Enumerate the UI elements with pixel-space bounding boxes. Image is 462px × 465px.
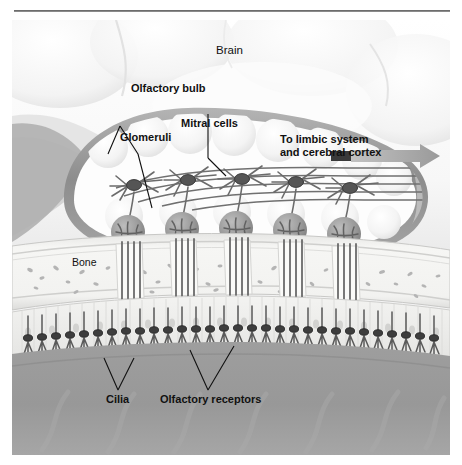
top-divider-rule xyxy=(14,10,450,12)
figure-root: Brain Olfactory bulb Glomeruli Mitral ce… xyxy=(0,0,462,465)
illustration-canvas: Brain Olfactory bulb Glomeruli Mitral ce… xyxy=(12,20,450,455)
label-mitral-cells: Mitral cells xyxy=(181,117,238,129)
label-bone: Bone xyxy=(72,256,97,268)
label-cilia: Cilia xyxy=(106,393,129,405)
anatomy-artwork xyxy=(12,20,450,455)
label-glomeruli: Glomeruli xyxy=(120,131,171,143)
mitral-cell-soma xyxy=(235,174,250,185)
mitral-cell-soma xyxy=(289,177,304,188)
mitral-cell-soma xyxy=(127,180,142,191)
bulb-cell-cluster xyxy=(367,205,401,239)
bulb-cell-cluster xyxy=(376,160,412,196)
label-and-cerebral-cortex: and cerebral cortex xyxy=(280,146,382,158)
label-olfactory-bulb: Olfactory bulb xyxy=(131,82,206,94)
label-olfactory-receptors: Olfactory receptors xyxy=(160,393,261,405)
mitral-cell-soma xyxy=(181,175,196,186)
label-to-limbic-system: To limbic system xyxy=(280,133,368,145)
label-brain: Brain xyxy=(216,44,243,56)
mitral-cell-soma xyxy=(343,183,358,194)
